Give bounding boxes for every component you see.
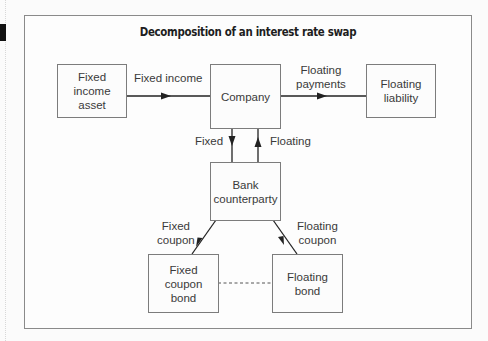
node-label-line: Fixed	[73, 70, 110, 84]
edge-label-floating: Floating	[270, 134, 311, 148]
node-label: Company	[221, 90, 270, 104]
node-label-line: Bank	[214, 178, 278, 192]
edge-label-line: coupon	[297, 233, 338, 247]
edge-label-line: Fixed	[157, 219, 195, 233]
edge-label-line: coupon	[157, 233, 195, 247]
node-label-line: Fixed	[165, 263, 203, 277]
edge-floating-up	[255, 128, 262, 162]
node-label-line: bond	[287, 284, 328, 298]
edge-fixed-down	[229, 128, 236, 162]
edge-label-fixed: Fixed	[195, 134, 223, 148]
node-label-line: income	[73, 84, 110, 98]
edge-floating-payments	[280, 93, 366, 100]
edge-label-fixed-coupon: Fixed coupon	[157, 219, 195, 247]
edge-fixed-income	[126, 93, 210, 100]
node-bank-counterparty: Bank counterparty	[210, 162, 281, 221]
edge-label-line: Floating	[297, 219, 338, 233]
edge-floating-coupon	[273, 220, 297, 254]
node-company: Company	[210, 64, 281, 129]
node-label-line: Floating	[287, 270, 328, 284]
edge-fixed-coupon	[192, 220, 216, 254]
node-label-line: bond	[165, 291, 203, 305]
node-floating-liability: Floating liability	[366, 64, 436, 118]
node-fixed-income-asset: Fixed income asset	[57, 64, 127, 118]
node-fixed-coupon-bond: Fixed coupon bond	[148, 254, 219, 313]
node-label-line: coupon	[165, 277, 203, 291]
node-label-line: liability	[381, 91, 422, 105]
node-label-line: asset	[73, 98, 110, 112]
edge-label-line: Floating	[296, 63, 346, 77]
edge-label-fixed-income: Fixed income	[134, 71, 202, 85]
node-label-line: Floating	[381, 77, 422, 91]
edge-label-floating-payments: Floating payments	[296, 63, 346, 91]
node-floating-bond: Floating bond	[272, 254, 343, 313]
edge-label-floating-coupon: Floating coupon	[297, 219, 338, 247]
node-label-line: counterparty	[214, 192, 278, 206]
edge-label-line: payments	[296, 77, 346, 91]
